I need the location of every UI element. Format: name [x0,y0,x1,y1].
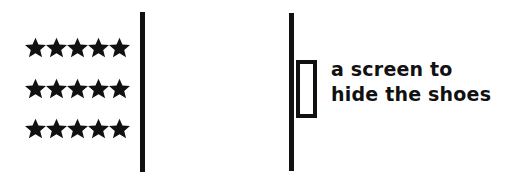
shoes-star-grid [25,33,130,145]
star-icon [67,78,88,99]
caption-line-2: hide the shoes [331,82,506,107]
star-icon [46,118,67,139]
left-barrier-line [140,12,145,172]
star-icon [88,37,109,58]
screen-rectangle [296,60,317,118]
star-icon [88,118,109,139]
star-icon [88,78,109,99]
star-icon [25,37,46,58]
star-icon [109,118,130,139]
star-icon [46,78,67,99]
star-icon [67,37,88,58]
star-icon [109,37,130,58]
star-row [25,76,130,100]
star-icon [46,37,67,58]
star-icon [25,78,46,99]
star-icon [67,118,88,139]
right-barrier-line [289,13,294,171]
star-icon [25,118,46,139]
star-icon [109,78,130,99]
star-row [25,35,130,59]
screen-caption: a screen to hide the shoes [331,57,506,107]
caption-line-1: a screen to [331,57,506,82]
star-row [25,116,130,140]
figure-canvas: a screen to hide the shoes [0,0,513,182]
